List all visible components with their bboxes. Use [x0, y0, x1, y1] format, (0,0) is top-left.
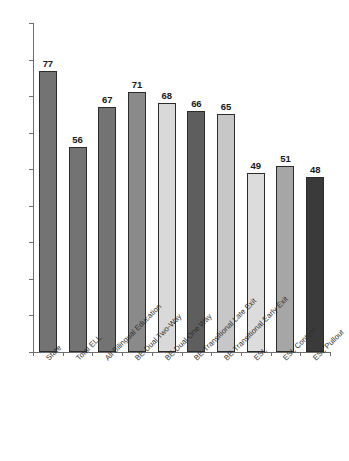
bar	[276, 166, 294, 352]
bar-group: 48	[306, 23, 324, 352]
bar-group: 66	[187, 23, 205, 352]
bar	[128, 92, 146, 352]
bar-value-label: 77	[43, 58, 53, 69]
bar-group: 77	[39, 23, 57, 352]
bar-value-label: 65	[221, 101, 231, 112]
bar-value-label: 48	[310, 164, 320, 175]
bar	[98, 107, 116, 352]
bar	[306, 177, 324, 352]
bar	[69, 147, 87, 352]
bar-value-label: 71	[132, 79, 142, 90]
bar-group: 67	[98, 23, 116, 352]
bar-value-label: 49	[251, 160, 261, 171]
bar-group: 71	[128, 23, 146, 352]
bar-value-label: 56	[72, 134, 82, 145]
x-axis-labels: StateTotal ELLAll Bilingual EducationBE-…	[33, 356, 349, 461]
bar-value-label: 51	[280, 153, 290, 164]
bar-group: 65	[217, 23, 235, 352]
bar-value-label: 67	[102, 94, 112, 105]
bar	[39, 71, 57, 352]
bar-group: 68	[158, 23, 176, 352]
bar-value-label: 68	[161, 90, 171, 101]
bar-group: 56	[69, 23, 87, 352]
bar-chart: 0102030405060708090 77566771686665495148…	[0, 0, 349, 461]
bar-value-label: 66	[191, 98, 201, 109]
